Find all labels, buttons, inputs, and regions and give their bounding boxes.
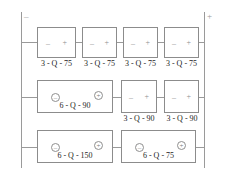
negative-terminal-label: – (24, 12, 29, 21)
cell-1-4-label: 3 - Q - 75 (162, 59, 201, 69)
cell-2-2: – + (121, 80, 157, 113)
cell-3-2-label: 6 - Q - 75 (122, 151, 195, 161)
cell-1-2: – + (82, 27, 117, 58)
branch-1-wire-right (199, 42, 205, 43)
cell-1-1-label: 3 - Q - 75 (37, 59, 76, 69)
cell-1-3-plus-icon: + (145, 39, 150, 47)
cell-1-1-plus-icon: + (62, 39, 67, 47)
battery-wiring-diagram: – + – + 3 - Q - 75 – + 3 - Q - 75 – + 3 … (0, 0, 228, 175)
cell-1-3-minus-icon: – (131, 40, 135, 48)
cell-2-2-plus-icon: + (144, 93, 149, 101)
cell-1-4-plus-icon: + (186, 39, 191, 47)
cell-1-4-minus-icon: – (172, 40, 176, 48)
cell-2-1-plus-circled-icon: + (94, 91, 103, 100)
cell-1-2-label: 3 - Q - 75 (80, 59, 119, 69)
cell-3-2: – + 6 - Q - 75 (121, 130, 196, 163)
cell-1-3-label: 3 - Q - 75 (121, 59, 160, 69)
cell-2-3: – + (164, 80, 199, 113)
branch-3-wire-right (196, 147, 205, 148)
branch-2-wire-gap-2 (157, 97, 164, 98)
branch-2-wire-left (21, 97, 37, 98)
cell-2-3-label: 3 - Q - 90 (162, 114, 202, 124)
branch-1-wire-left (21, 42, 37, 43)
branch-2-wire-right (199, 97, 205, 98)
cell-1-1: – + (37, 27, 76, 58)
cell-1-2-plus-icon: + (104, 39, 109, 47)
cell-1-4: – + (164, 27, 199, 58)
cell-2-3-plus-icon: + (186, 93, 191, 101)
positive-bus-rail (204, 12, 205, 168)
cell-2-2-minus-icon: – (129, 94, 133, 102)
branch-3-wire-gap-1 (113, 147, 121, 148)
cell-3-1: – + 6 - Q - 150 (37, 130, 113, 163)
branch-2-wire-gap-1 (113, 97, 121, 98)
cell-2-3-minus-icon: – (172, 94, 176, 102)
cell-1-1-minus-icon: – (46, 40, 50, 48)
cell-2-1-label: 6 - Q - 90 (38, 101, 112, 111)
cell-1-2-minus-icon: – (90, 40, 94, 48)
positive-terminal-label: + (207, 12, 212, 21)
cell-2-2-label: 3 - Q - 90 (119, 114, 159, 124)
cell-3-1-label: 6 - Q - 150 (38, 151, 112, 161)
cell-2-1: – + 6 - Q - 90 (37, 80, 113, 113)
cell-3-2-plus-circled-icon: + (177, 141, 186, 150)
cell-1-3: – + (123, 27, 158, 58)
cell-3-1-plus-circled-icon: + (94, 141, 103, 150)
negative-bus-rail (21, 12, 22, 168)
branch-3-wire-left (21, 147, 37, 148)
